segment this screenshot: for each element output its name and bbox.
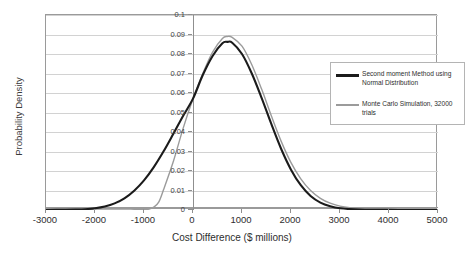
value-tick-mark [188, 92, 192, 93]
value-tick-label: 0.06 [152, 88, 185, 97]
category-tick-label: -3000 [33, 214, 57, 225]
value-tick-label: 0.07 [152, 68, 185, 77]
category-tick-mark [290, 209, 291, 213]
value-tick-label: 0.02 [152, 166, 185, 175]
category-tick-mark [192, 209, 193, 213]
value-tick-label: 0.1 [152, 10, 185, 19]
category-tick-mark [241, 209, 242, 213]
category-tick-mark [45, 209, 46, 213]
category-tick-mark [94, 209, 95, 213]
category-tick-label: 5000 [426, 214, 447, 225]
legend-swatch-icon [336, 104, 359, 106]
category-tick-label: 0 [189, 214, 194, 225]
plot-area: Second moment Method using Normal Distri… [45, 14, 437, 209]
y-axis-title: Probability Density [12, 77, 23, 156]
value-tick-mark [188, 190, 192, 191]
value-tick-mark [188, 53, 192, 54]
value-tick-mark [188, 112, 192, 113]
value-tick-label: 0 [152, 205, 185, 214]
legend-label: Monte Carlo Simulation, 32000 trials [362, 100, 459, 118]
value-tick-mark [188, 151, 192, 152]
category-tick-label: 3000 [328, 214, 349, 225]
category-tick-mark [339, 209, 340, 213]
category-tick-mark [437, 209, 438, 213]
value-tick-mark [188, 14, 192, 15]
category-tick-mark [143, 209, 144, 213]
value-tick-label: 0.05 [152, 107, 185, 116]
category-tick-label: -2000 [82, 214, 106, 225]
category-tick-label: 1000 [230, 214, 251, 225]
value-tick-mark [188, 131, 192, 132]
y-axis-title-wrap: Probability Density [0, 106, 88, 124]
category-tick-label: -1000 [131, 214, 155, 225]
legend-swatch-icon [336, 74, 359, 77]
value-tick-label: 0.08 [152, 49, 185, 58]
value-tick-label: 0.09 [152, 29, 185, 38]
category-tick-label: 4000 [377, 214, 398, 225]
value-tick-label: 0.03 [152, 146, 185, 155]
value-tick-mark [188, 73, 192, 74]
legend-item: Second moment Method using Normal Distri… [336, 70, 459, 88]
legend: Second moment Method using Normal Distri… [330, 62, 465, 125]
legend-item: Monte Carlo Simulation, 32000 trials [336, 100, 459, 118]
category-tick-mark [388, 209, 389, 213]
legend-label: Second moment Method using Normal Distri… [362, 70, 459, 88]
x-axis-title: Cost Difference ($ millions) [0, 232, 464, 243]
value-tick-label: 0.01 [152, 185, 185, 194]
category-tick-label: 2000 [279, 214, 300, 225]
value-tick-mark [188, 170, 192, 171]
value-tick-label: 0.04 [152, 127, 185, 136]
value-tick-mark [188, 34, 192, 35]
